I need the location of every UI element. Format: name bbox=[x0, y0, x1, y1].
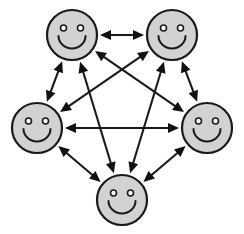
node-bottom[interactable] bbox=[97, 175, 147, 225]
edge-top-right-to-right bbox=[181, 61, 198, 102]
node-top-left[interactable] bbox=[47, 10, 97, 60]
network-diagram-svg bbox=[0, 0, 244, 234]
right-eye-icon bbox=[43, 118, 49, 124]
network-diagram-canvas bbox=[0, 0, 244, 234]
arrow-head-end bbox=[189, 90, 198, 102]
edge-top-left-to-left bbox=[46, 61, 63, 102]
arrow-head-start bbox=[156, 62, 166, 74]
nodes-layer bbox=[12, 10, 232, 225]
face-circle bbox=[12, 103, 62, 153]
right-eye-icon bbox=[78, 25, 84, 31]
arrow-head-start bbox=[65, 123, 76, 133]
edge-left-to-bottom bbox=[58, 146, 100, 182]
edge-shaft bbox=[83, 70, 112, 165]
left-eye-icon bbox=[61, 25, 67, 31]
arrow-head-start bbox=[79, 62, 89, 74]
edge-shaft bbox=[65, 152, 94, 176]
node-left[interactable] bbox=[12, 103, 62, 153]
arrow-head-end bbox=[129, 161, 139, 173]
arrow-head-start bbox=[181, 61, 190, 73]
arrow-head-end bbox=[172, 102, 184, 112]
node-right[interactable] bbox=[182, 103, 232, 153]
edge-shaft bbox=[150, 152, 179, 176]
edge-shaft bbox=[102, 56, 176, 107]
left-eye-icon bbox=[26, 118, 32, 124]
edge-top-left-to-top-right bbox=[100, 30, 144, 40]
left-eye-icon bbox=[161, 25, 167, 31]
arrow-head-start bbox=[54, 61, 63, 73]
right-eye-icon bbox=[213, 118, 219, 124]
face-circle bbox=[147, 10, 197, 60]
arrow-head-start bbox=[95, 51, 107, 61]
left-eye-icon bbox=[111, 190, 117, 196]
face-circle bbox=[182, 103, 232, 153]
face-circle bbox=[47, 10, 97, 60]
arrow-head-end bbox=[60, 102, 72, 112]
arrow-head-start bbox=[100, 30, 111, 40]
edge-shaft bbox=[133, 70, 162, 165]
node-top-right[interactable] bbox=[147, 10, 197, 60]
edge-shaft bbox=[50, 69, 59, 93]
arrow-head-end bbox=[106, 161, 116, 173]
edge-shaft bbox=[185, 69, 194, 93]
edge-right-to-bottom bbox=[143, 146, 185, 182]
edge-shaft bbox=[67, 56, 141, 107]
right-eye-icon bbox=[178, 25, 184, 31]
arrow-head-end bbox=[133, 30, 144, 40]
left-eye-icon bbox=[196, 118, 202, 124]
face-circle bbox=[97, 175, 147, 225]
arrow-head-end bbox=[46, 90, 55, 102]
arrow-head-start bbox=[137, 51, 149, 61]
right-eye-icon bbox=[128, 190, 134, 196]
arrow-head-end bbox=[168, 123, 179, 133]
edge-left-to-right bbox=[65, 123, 179, 133]
